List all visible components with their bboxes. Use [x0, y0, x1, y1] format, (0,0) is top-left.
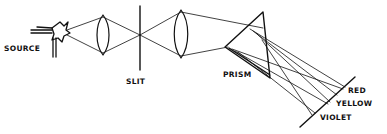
condenser-lens: [97, 15, 109, 55]
violet-label: VIOLET: [320, 113, 352, 122]
collimator-lens: [174, 10, 188, 58]
source-label: SOURCE: [4, 44, 40, 53]
yellow-label: YELLOW: [336, 99, 372, 108]
red-label: RED: [348, 86, 366, 95]
prism-label: PRISM: [223, 70, 251, 79]
slit-label: SLIT: [126, 77, 145, 86]
